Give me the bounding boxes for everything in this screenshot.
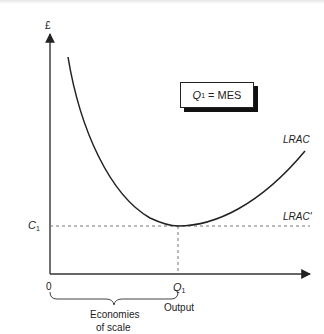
q1-letter: Q — [173, 281, 182, 293]
mes-text: = MES — [205, 89, 241, 101]
origin-label: 0 — [46, 281, 52, 292]
economies-label-line1: Economies — [90, 309, 139, 320]
economies-brace — [50, 292, 178, 305]
q1-label: Q1 — [173, 281, 185, 294]
y-axis-label: £ — [45, 20, 51, 31]
x-axis-label: Output — [164, 302, 194, 313]
c1-label: C1 — [28, 219, 40, 232]
lrac-prime-label: LRAC' — [283, 211, 312, 222]
lrac-label: LRAC — [283, 134, 310, 145]
mes-q-letter: Q — [193, 89, 202, 101]
q1-subscript: 1 — [182, 287, 186, 294]
mes-annotation-box: Q1 = MES — [180, 82, 254, 108]
economies-label-line2: of scale — [96, 322, 130, 333]
c1-subscript: 1 — [36, 225, 40, 232]
c1-letter: C — [28, 219, 36, 231]
